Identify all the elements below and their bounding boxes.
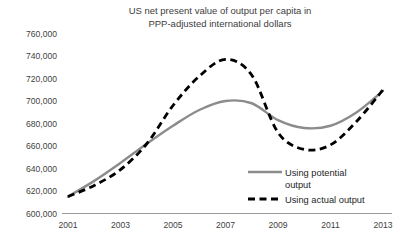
x-axis-tick-label: 2005: [163, 220, 182, 230]
y-axis-tick-label: 680,000: [26, 119, 57, 129]
chart-plot-area: 760,000740,000720,000700,000680,000660,0…: [0, 0, 400, 245]
chart-container: US net present value of output per capit…: [0, 0, 400, 245]
x-axis-tick-label: 2011: [321, 220, 340, 230]
chart-legend: Using potential output Using actual outp…: [248, 168, 365, 205]
y-axis-tick-label: 620,000: [26, 186, 57, 196]
y-axis-tick-label: 640,000: [26, 164, 57, 174]
x-axis-tick-label: 2009: [268, 220, 287, 230]
x-axis-tick-label: 2007: [216, 220, 235, 230]
x-axis-tick-labels: 2001200320052007200920112013: [58, 220, 392, 230]
y-axis-tick-label: 740,000: [26, 51, 57, 61]
y-axis-tick-label: 760,000: [26, 29, 57, 39]
legend-label-using-actual-output: Using actual output: [285, 195, 365, 205]
y-axis-tick-label: 600,000: [26, 209, 57, 219]
x-axis-tick-label: 2003: [111, 220, 130, 230]
x-axis-tick-label: 2013: [373, 220, 392, 230]
y-axis-tick-labels: 760,000740,000720,000700,000680,000660,0…: [26, 29, 57, 219]
x-axis-tick-label: 2001: [58, 220, 77, 230]
legend-label-using-potential-output-line2: output: [285, 180, 311, 190]
series-line-using-potential-output: [68, 91, 383, 197]
y-axis-tick-label: 720,000: [26, 74, 57, 84]
y-axis-tick-label: 700,000: [26, 96, 57, 106]
legend-label-using-potential-output-line1: Using potential: [285, 168, 347, 178]
y-axis-tick-label: 660,000: [26, 141, 57, 151]
